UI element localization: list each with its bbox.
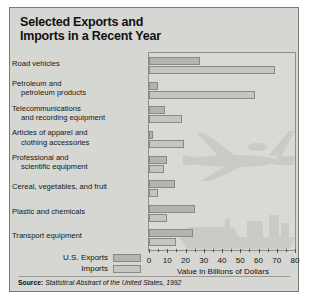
axis-tick-label: 40 [214, 256, 230, 265]
axis-minor-tick [195, 249, 196, 252]
axis-tick [240, 249, 241, 253]
category-label-line-2: and recording equipment [12, 113, 142, 122]
legend-item-exports: U.S. Exports [24, 253, 144, 264]
axis-tick [295, 249, 296, 253]
bar-imports [149, 214, 167, 222]
category-label: Professional andscientific equipment [12, 153, 142, 171]
category-label: Cereal, vegetables, and fruit [12, 182, 142, 191]
axis-tick-label: 80 [287, 256, 303, 265]
legend: U.S. Exports Imports [24, 253, 144, 275]
axis-tick-label: 20 [178, 256, 194, 265]
chart-figure: Selected Exports and Imports in a Recent… [9, 7, 299, 292]
category-label: Plastic and chemicals [12, 207, 142, 216]
axis-minor-tick [231, 249, 232, 252]
category-label-line-1: Petroleum and [12, 79, 61, 88]
axis-tick-label: 10 [159, 256, 175, 265]
axis-tick [204, 249, 205, 253]
axis-tick [259, 249, 260, 253]
legend-label-exports: U.S. Exports [63, 253, 108, 262]
category-label-line-1: Transport equipment [12, 231, 82, 240]
axis-minor-tick [176, 249, 177, 252]
category-label-line-2: scientific equipment [12, 162, 142, 171]
bar-exports [149, 131, 153, 139]
bar-imports [149, 238, 176, 246]
bar-imports [149, 165, 164, 173]
bar-exports [149, 82, 158, 90]
bar-imports [149, 140, 184, 148]
category-label-line-1: Articles of apparel and [12, 128, 88, 137]
bar-exports [149, 57, 200, 65]
category-label-line-1: Road vehicles [12, 59, 60, 68]
x-axis-tick-labels: 01020304050607080 [140, 256, 310, 267]
axis-tick [222, 249, 223, 253]
chart-title-line-2: Imports in a Recent Year [20, 30, 250, 44]
bar-exports [149, 156, 167, 164]
plot-area [148, 52, 296, 251]
source-text: Statistical Abstract of the United State… [45, 279, 181, 286]
source-prefix: Source: [18, 279, 43, 286]
bar-imports [149, 189, 158, 197]
axis-tick-label: 70 [269, 256, 285, 265]
chart-title-line-1: Selected Exports and [20, 16, 250, 30]
category-label: Road vehicles [12, 59, 142, 68]
legend-swatch-exports [113, 254, 141, 262]
ship-watermark [177, 211, 296, 249]
bar-exports [149, 106, 165, 114]
bar-imports [149, 66, 275, 74]
axis-minor-tick [268, 249, 269, 252]
axis-minor-tick [249, 249, 250, 252]
x-axis-title: Value in Billions of Dollars [148, 267, 298, 276]
category-label: Articles of apparel andclothing accessor… [12, 128, 142, 146]
source-divider [18, 276, 290, 277]
category-label-line-1: Cereal, vegetables, and fruit [12, 182, 107, 191]
category-label-line-2: petroleum products [12, 88, 142, 97]
bar-imports [149, 91, 255, 99]
axis-tick [167, 249, 168, 253]
category-label-line-1: Professional and [12, 153, 69, 162]
axis-tick [277, 249, 278, 253]
axis-tick [149, 249, 150, 253]
bar-exports [149, 180, 175, 188]
category-label-line-1: Plastic and chemicals [12, 207, 85, 216]
axis-tick-label: 60 [251, 256, 267, 265]
axis-tick [186, 249, 187, 253]
category-label: Telecommunicationsand recording equipmen… [12, 104, 142, 122]
axis-tick-label: 50 [232, 256, 248, 265]
legend-label-imports: Imports [81, 264, 108, 273]
legend-swatch-imports [113, 265, 141, 273]
bar-imports [149, 115, 182, 123]
chart-title: Selected Exports and Imports in a Recent… [20, 16, 250, 43]
axis-minor-tick [158, 249, 159, 252]
category-labels: Road vehiclesPetroleum andpetroleum prod… [10, 52, 148, 249]
source-note: Source: Statistical Abstract of the Unit… [18, 279, 294, 286]
category-label-line-2: clothing accessories [12, 138, 142, 147]
axis-minor-tick [286, 249, 287, 252]
category-label-line-1: Telecommunications [12, 104, 81, 113]
airplane-watermark [161, 125, 296, 187]
legend-item-imports: Imports [24, 264, 144, 275]
category-label: Petroleum andpetroleum products [12, 79, 142, 97]
category-label: Transport equipment [12, 231, 142, 240]
axis-tick-label: 30 [196, 256, 212, 265]
axis-minor-tick [213, 249, 214, 252]
bar-exports [149, 229, 193, 237]
bar-exports [149, 205, 195, 213]
